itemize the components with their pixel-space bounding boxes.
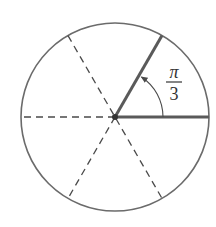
terminal-side-ray bbox=[115, 36, 162, 117]
center-point bbox=[112, 114, 118, 120]
angle-label-numerator: π bbox=[169, 62, 179, 82]
dashed-ray-240 bbox=[68, 117, 115, 198]
angle-label-denominator: 3 bbox=[170, 84, 179, 104]
angle-label: π 3 bbox=[166, 62, 182, 104]
angle-arc-arrow bbox=[142, 77, 164, 117]
circle-diagram: π 3 bbox=[0, 0, 216, 227]
